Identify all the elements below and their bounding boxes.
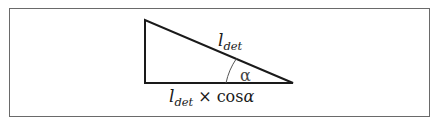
cos-argument: α	[243, 87, 254, 106]
multiply-operator: ×	[198, 87, 211, 106]
hypotenuse-label-subscript: det	[223, 39, 242, 53]
base-label-subscript: det	[174, 95, 193, 109]
right-triangle-diagram: ldet α ldet×cosα	[0, 0, 441, 125]
angle-label: α	[240, 66, 251, 85]
angle-arc	[226, 59, 237, 84]
cos-function: cos	[217, 87, 244, 106]
hypotenuse-label: ldet	[218, 30, 243, 53]
base-label: ldet×cosα	[169, 86, 254, 109]
